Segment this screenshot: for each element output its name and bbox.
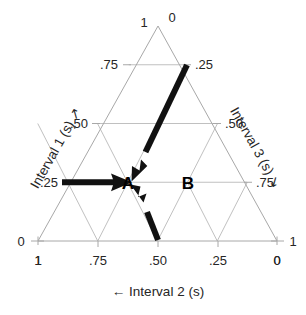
tick-marks: [31, 65, 284, 247]
ternary-plot-svg: 1 0 0 1 1 0 .75 .50 .25 .25 .50 .75 1 .7…: [0, 0, 306, 315]
tick-label-bottom-25: .25: [209, 253, 227, 268]
vertex-label-apex-right: 0: [168, 10, 175, 25]
axis-line-right: [158, 26, 277, 241]
tick-label-bottom-1: 1: [34, 253, 41, 268]
vertex-label-bottomleft-upper: 0: [17, 234, 24, 249]
arrow-shaft-diagonal-lower: [147, 212, 158, 240]
tick-label-bottom-0: 0: [273, 253, 280, 268]
tick-labels-bottom-axis: 1 .75 .50 .25 0: [34, 253, 280, 268]
point-label-a: A: [122, 174, 134, 193]
tick-label-right-25: .25: [195, 57, 213, 72]
ternary-diagram: 1 0 0 1 1 0 .75 .50 .25 .25 .50 .75 1 .7…: [0, 0, 306, 315]
vertex-label-apex-left: 1: [140, 15, 147, 30]
grid-lines: [38, 65, 248, 241]
axis-title-interval-2: ← Interval 2 (s): [112, 284, 204, 299]
data-point-labels: A B: [122, 174, 194, 193]
vertex-label-bottomright-upper: 1: [289, 234, 296, 249]
gridline-bottom-25: [217, 182, 247, 241]
point-label-b: B: [182, 174, 194, 193]
tick-label-left-75: .75: [100, 57, 118, 72]
arrow-shaft-diagonal-upper: [146, 65, 188, 152]
tick-label-bottom-50: .50: [149, 253, 167, 268]
arrow-from-interval2-axis: [131, 185, 159, 241]
tick-label-bottom-75: .75: [89, 253, 107, 268]
